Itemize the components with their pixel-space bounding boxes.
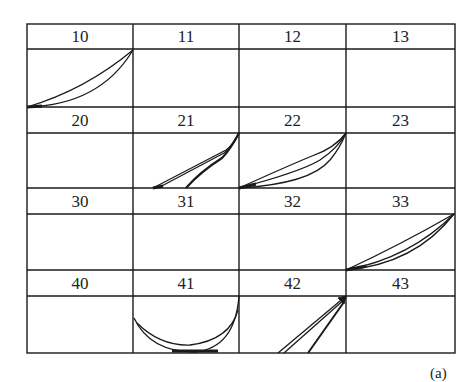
cell-33-curves xyxy=(346,214,454,270)
cell-label-23: 23 xyxy=(346,107,455,133)
cell-label-33: 33 xyxy=(346,188,455,214)
cell-label-13: 13 xyxy=(346,24,455,49)
cell-label-21: 21 xyxy=(133,107,239,133)
cell-label-43: 43 xyxy=(346,270,455,296)
figure-caption: (a) xyxy=(430,365,447,382)
cell-label-22: 22 xyxy=(239,107,346,133)
cell-label-11: 11 xyxy=(133,24,239,49)
cell-21-curves xyxy=(153,133,239,188)
cell-label-10: 10 xyxy=(27,24,133,49)
figure: 10 11 12 13 20 21 22 23 30 31 32 33 40 4… xyxy=(0,0,476,382)
cell-label-12: 12 xyxy=(239,24,346,49)
cell-label-32: 32 xyxy=(239,188,346,214)
cell-42-lines xyxy=(278,296,346,353)
cell-22-curves xyxy=(239,133,346,188)
cell-label-42: 42 xyxy=(239,270,346,296)
cell-41-arcs xyxy=(134,296,239,352)
cell-label-41: 41 xyxy=(133,270,239,296)
cell-label-20: 20 xyxy=(27,107,133,133)
cell-label-40: 40 xyxy=(27,270,133,296)
cell-label-30: 30 xyxy=(27,188,133,214)
cell-label-31: 31 xyxy=(133,188,239,214)
cell-10-curves xyxy=(27,50,133,107)
